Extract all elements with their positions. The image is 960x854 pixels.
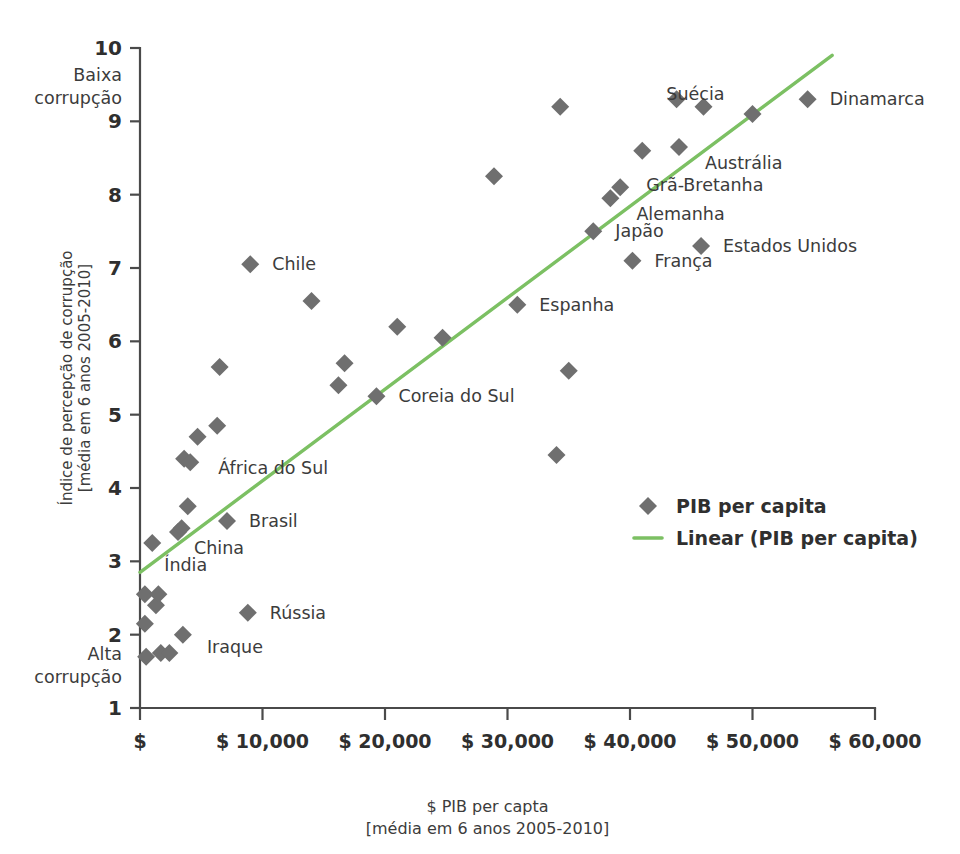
y-axis-subtitle: [média em 6 anos 2005-2010]	[76, 264, 94, 492]
x-tick-label-0: $	[133, 730, 146, 752]
data-point-25	[434, 329, 452, 347]
data-point-dinamarca	[799, 90, 817, 108]
point-label-coreia-do-sul: Coreia do Sul	[398, 386, 514, 406]
data-point-21	[329, 376, 347, 394]
data-point-28	[548, 446, 566, 464]
data-point-12	[179, 497, 197, 515]
point-label-fran-a: França	[654, 251, 712, 271]
data-point-chile	[241, 255, 259, 273]
point-label-espanha: Espanha	[539, 295, 614, 315]
point-label-su-cia: Suécia	[666, 84, 724, 104]
point-label-brasil: Brasil	[249, 511, 298, 531]
legend-label-1: Linear (PIB per capita)	[676, 527, 918, 549]
y-tick-label-4: 4	[108, 476, 122, 500]
x-tick-label-30000: $ 30,000	[461, 730, 554, 752]
y-tick-label-7: 7	[108, 256, 122, 280]
y-tick-label-5: 5	[108, 403, 122, 427]
x-tick-label-40000: $ 40,000	[583, 730, 676, 752]
x-tick-label-50000: $ 50,000	[706, 730, 799, 752]
x-axis-subtitle: [média em 6 anos 2005-2010]	[366, 819, 610, 838]
data-point-fran-a	[623, 252, 641, 270]
data-point-brasil	[218, 512, 236, 530]
legend-label-0: PIB per capita	[676, 495, 827, 517]
y-tick-label-9: 9	[108, 109, 122, 133]
point-label-r-ssia: Rússia	[270, 603, 326, 623]
y-tick-label-1: 1	[108, 696, 122, 720]
y-axis-note-high-corruption-line2: corrupção	[34, 667, 122, 687]
x-tick-label-20000: $ 20,000	[338, 730, 431, 752]
point-label--frica-do-sul: África do Sul	[218, 457, 328, 478]
data-point-30	[560, 362, 578, 380]
data-point-16	[211, 358, 229, 376]
x-axis-title: $ PIB per capta	[426, 797, 548, 816]
data-point-15	[208, 417, 226, 435]
plot-svg: 12345678910$$ 10,000$ 20,000$ 30,000$ 40…	[0, 0, 960, 854]
y-axis-note-high-corruption-line1: Alta	[88, 644, 122, 664]
data-point--ndia	[143, 534, 161, 552]
y-tick-label-6: 6	[108, 329, 122, 353]
y-tick-label-3: 3	[108, 549, 122, 573]
corruption-gdp-scatter-chart: 12345678910$$ 10,000$ 20,000$ 30,000$ 40…	[0, 0, 960, 854]
y-tick-label-8: 8	[108, 183, 122, 207]
data-point-r-ssia	[239, 604, 257, 622]
y-axis-note-low-corruption-line1: Baixa	[73, 65, 122, 85]
data-point-29	[551, 98, 569, 116]
data-point-iraque	[174, 626, 192, 644]
legend-layer: PIB per capitaLinear (PIB per capita)	[634, 495, 918, 549]
data-point-35	[633, 142, 651, 160]
point-label-alemanha: Alemanha	[636, 204, 724, 224]
x-tick-label-60000: $ 60,000	[828, 730, 921, 752]
point-label-dinamarca: Dinamarca	[830, 89, 925, 109]
data-point-22	[336, 354, 354, 372]
data-point-26	[485, 167, 503, 185]
point-label-iraque: Iraque	[207, 637, 263, 657]
y-tick-label-10: 10	[94, 36, 122, 60]
y-axis-note-low-corruption-line2: corrupção	[34, 88, 122, 108]
data-point-austr-lia	[670, 138, 688, 156]
legend-marker-scatter	[639, 497, 657, 515]
point-label-austr-lia: Austrália	[705, 153, 782, 173]
point-annotations-layer: ChileCoreia do SulEspanhaÁfrica do SulBr…	[164, 84, 924, 657]
data-point-1	[136, 615, 154, 633]
x-tick-label-10000: $ 10,000	[216, 730, 309, 752]
point-label-chile: Chile	[272, 254, 316, 274]
data-point-24	[388, 318, 406, 336]
point-label--ndia: Índia	[164, 554, 207, 575]
data-point-14	[189, 428, 207, 446]
point-label-estados-unidos: Estados Unidos	[723, 236, 857, 256]
data-point-20	[303, 292, 321, 310]
data-point-espanha	[508, 296, 526, 314]
y-axis-title: Índice de percepção de corrupção	[57, 250, 76, 505]
point-label-gr-bretanha: Grã-Bretanha	[646, 175, 763, 195]
